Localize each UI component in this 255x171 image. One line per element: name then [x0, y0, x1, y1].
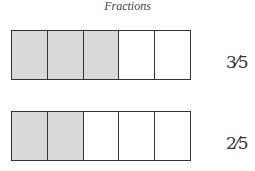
- unshaded-part: [155, 112, 190, 160]
- shaded-part: [12, 31, 48, 79]
- diagram-title: Fractions: [0, 0, 255, 14]
- shaded-part: [12, 112, 48, 160]
- shaded-part: [48, 112, 84, 160]
- fraction-label-three-fifths: 3⁄5: [226, 52, 247, 72]
- shaded-part: [48, 31, 84, 79]
- fraction-bar-two-fifths: [11, 111, 191, 161]
- fraction-bar-three-fifths: [11, 30, 191, 80]
- unshaded-part: [119, 31, 155, 79]
- shaded-part: [84, 31, 120, 79]
- fraction-label-two-fifths: 2⁄5: [226, 133, 247, 153]
- unshaded-part: [84, 112, 120, 160]
- unshaded-part: [119, 112, 155, 160]
- unshaded-part: [155, 31, 190, 79]
